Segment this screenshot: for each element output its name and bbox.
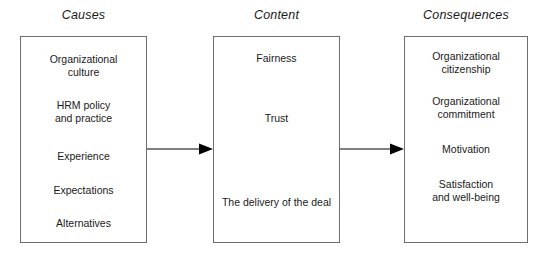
box-item-fairness: Fairness (214, 52, 339, 65)
box-item-delivery-of-the-deal: The delivery of the deal (214, 196, 339, 209)
box-item-satisfaction-and-well-being: Satisfaction and well-being (405, 178, 527, 203)
box-item-organizational-commitment: Organizational commitment (405, 95, 527, 120)
arrow-causes-to-content (147, 142, 213, 156)
stage-box-content: Fairness Trust The delivery of the deal (213, 36, 340, 243)
box-item-organizational-citizenship: Organizational citizenship (405, 50, 527, 75)
arrow-content-to-consequences (340, 142, 404, 156)
box-item-alternatives: Alternatives (21, 217, 146, 230)
box-item-expectations: Expectations (21, 184, 146, 197)
box-item-organizational-culture: Organizational culture (21, 53, 146, 78)
column-header-content: Content (213, 8, 340, 22)
diagram-canvas: Causes Content Consequences Organization… (0, 0, 546, 258)
column-header-causes: Causes (20, 8, 147, 22)
box-item-motivation: Motivation (405, 143, 527, 156)
column-header-consequences: Consequences (404, 8, 528, 22)
stage-box-consequences: Organizational citizenship Organizationa… (404, 36, 528, 243)
stage-box-causes: Organizational culture HRM policy and pr… (20, 36, 147, 243)
box-item-experience: Experience (21, 150, 146, 163)
box-item-hrm-policy-and-practice: HRM policy and practice (21, 99, 146, 124)
box-item-trust: Trust (214, 112, 339, 125)
